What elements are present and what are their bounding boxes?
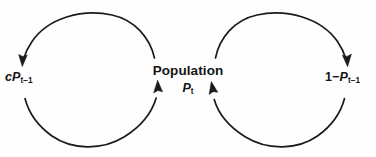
left-term-label: cPt−1 [5,71,33,84]
left-loop-arrowhead-down [19,55,28,67]
right-loop-lower-arc [209,82,344,147]
diagram-canvas: cPt−1 PopulationPt 1−Pt−1 [0,0,376,157]
population-title: Population [153,63,224,78]
population-subscript: t [191,87,194,96]
right-loop-arrowhead-down [342,54,351,67]
population-variable-line: Pt [148,82,228,95]
population-variable: P [182,81,190,95]
left-loop-upper-arc [19,13,155,67]
right-term-subscript: t−1 [348,76,360,85]
left-term-subscript: t−1 [21,76,33,85]
right-loop-upper-arc [216,13,352,67]
right-term-label: 1−Pt−1 [325,71,360,84]
right-term-prefix: 1 [325,70,332,84]
left-loop-lower-arc [25,80,163,147]
left-term-coefficient: c [5,70,12,84]
population-node-label: PopulationPt [148,64,228,94]
right-term-variable: P [339,70,347,84]
left-term-variable: P [12,70,20,84]
